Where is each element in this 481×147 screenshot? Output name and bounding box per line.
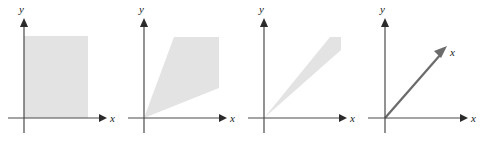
panel-3-x-axis-label: x — [349, 112, 355, 124]
panel-3-y-axis — [260, 18, 268, 133]
panel-2-x-axis — [128, 114, 227, 122]
panel-2-y-axis-label: y — [138, 3, 144, 15]
panel-2-shaded-region — [144, 37, 219, 118]
panel-3-y-axis-label: y — [258, 3, 264, 15]
panel-4-vector-arrow — [385, 46, 447, 118]
panel-1-shaded-region — [24, 36, 88, 118]
panel-4-single-vector: x y x — [360, 0, 481, 147]
panel-3-shaded-region — [264, 37, 341, 118]
panel-2-wide-cone-region: x y — [120, 0, 240, 147]
panel-2-x-axis-label: x — [229, 112, 235, 124]
panel-4-y-axis-label: y — [379, 3, 385, 15]
panel-4-vector-label: x — [449, 46, 455, 58]
panel-1-x-axis-label: x — [109, 112, 115, 124]
panel-3-x-axis — [248, 114, 347, 122]
panel-3-narrow-cone-region: x y — [240, 0, 360, 147]
panel-4-x-axis-label: x — [470, 112, 476, 124]
figure-four-panel-cone-diagram: x y x y — [0, 0, 481, 147]
panel-1-filled-rectangle-region: x y — [0, 0, 120, 147]
panel-1-y-axis-label: y — [18, 3, 24, 15]
panel-4-x-axis — [368, 114, 468, 122]
